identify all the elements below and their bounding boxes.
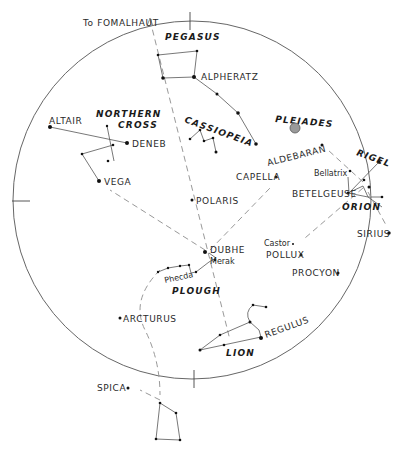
label-vega: VEGA (104, 177, 132, 187)
label-lion: LION (226, 348, 255, 358)
guide-to-arcturus-spica (140, 270, 160, 395)
lion-constellation (199, 304, 268, 352)
polaris-star (191, 199, 194, 202)
label-plough: PLOUGH (172, 286, 221, 296)
label-regulus: REGULUS (263, 315, 310, 340)
castor-star (292, 243, 294, 245)
label-pollux: POLLUX (266, 250, 304, 260)
label-alpheratz: ALPHERATZ (201, 72, 258, 82)
label-procyon: PROCYON (292, 268, 340, 278)
label-dubhe: DUBHE (210, 245, 245, 255)
label-cassiopeia: CASSIOPEIA (183, 114, 254, 148)
label-betelgeuse: BETELGEUSE (292, 189, 357, 199)
label-spica: SPICA (97, 383, 126, 393)
label-arcturus: ARCTURUS (123, 314, 177, 324)
star-chart: PEGASUS ALPHERATZ To FOMALHAUT CASSIOPEI… (0, 0, 402, 454)
label-northern: NORTHERN (96, 109, 162, 119)
label-bellatrix: Bellatrix (314, 169, 347, 178)
orion-constellation (347, 160, 384, 207)
label-phecda: Phecda (164, 270, 195, 285)
guide-to-vega (110, 190, 205, 250)
label-sirius: SIRIUS (357, 229, 390, 239)
label-deneb: DENEB (132, 139, 166, 149)
arcturus-star (119, 317, 122, 320)
pleiades-cluster-icon (290, 123, 300, 133)
label-capella: CAPELLA (236, 172, 280, 182)
label-aldebaran: ALDEBARAN (266, 144, 327, 168)
northern-cross-constellation (48, 125, 129, 183)
label-altair: ALTAIR (49, 116, 82, 126)
label-orion: ORION (342, 202, 381, 212)
spica-star (127, 387, 130, 390)
label-cross: CROSS (118, 120, 158, 130)
label-pleiades: PLEIADES (275, 114, 334, 129)
label-rigel: RIGEL (355, 147, 392, 169)
label-polaris: POLARIS (196, 196, 239, 206)
label-merak: Merak (210, 257, 235, 266)
plough-constellation (157, 250, 217, 273)
label-pegasus: PEGASUS (165, 32, 221, 42)
label-castor: Castor (264, 239, 291, 248)
virgo-constellation (155, 402, 182, 442)
label-to-fomalhaut: To FOMALHAUT (82, 18, 159, 28)
guide-to-spica (140, 390, 160, 400)
